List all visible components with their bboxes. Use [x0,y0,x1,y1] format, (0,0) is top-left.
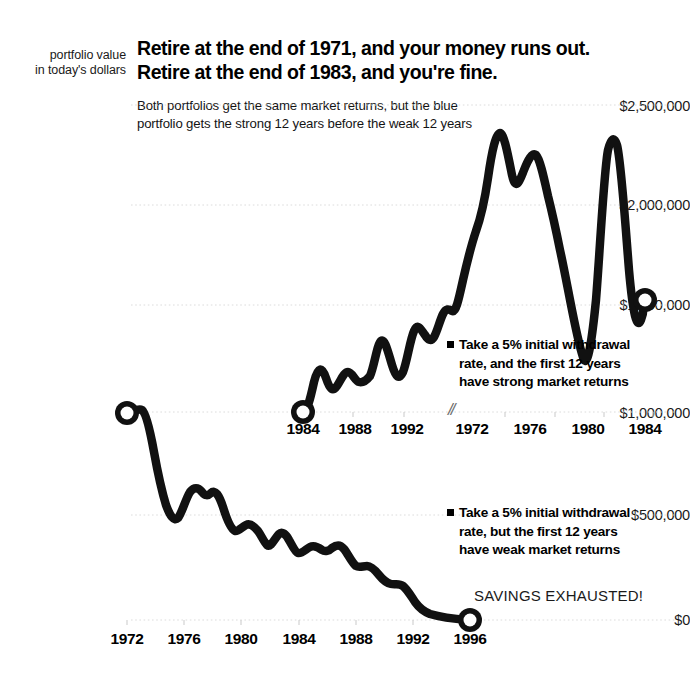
x-tick-upper-1992: 1992 [390,420,423,438]
upper-axis-ticks [303,412,653,417]
annotation-strong-line3: have strong market returns [447,373,687,392]
annotation-weak-line2: rate, but the first 12 years [447,523,687,542]
x-tick-lower-1980: 1980 [224,630,257,648]
x-tick-upper-1976: 1976 [513,420,546,438]
x-tick-upper-1988: 1988 [338,420,371,438]
x-tick-lower-1996: 1996 [453,630,486,648]
chart-container: portfolio value in today's dollars Retir… [0,0,690,689]
annotation-strong-returns: Take a 5% initial withdrawal rate, and t… [447,336,687,392]
series-start-marker-weak [115,401,139,425]
x-tick-lower-1972: 1972 [110,630,143,648]
annotation-bullet-icon [447,509,454,516]
annotation-strong-line1: Take a 5% initial withdrawal [459,337,630,352]
axis-break-marker: // [448,400,453,420]
x-tick-lower-1992: 1992 [396,630,429,648]
x-tick-lower-1976: 1976 [167,630,200,648]
lower-axis-ticks [127,620,470,625]
series-end-marker-strong [633,288,657,312]
series-end-marker-weak [458,608,482,632]
annotation-weak-line1: Take a 5% initial withdrawal [459,505,630,520]
annotation-weak-line3: have weak market returns [447,541,687,560]
annotation-bullet-icon [447,341,454,348]
annotation-weak-returns: Take a 5% initial withdrawal rate, but t… [447,504,687,560]
x-tick-upper-1980: 1980 [571,420,604,438]
x-tick-upper-1984b: 1984 [628,420,661,438]
x-tick-upper-1984a: 1984 [286,420,319,438]
x-tick-lower-1984: 1984 [282,630,315,648]
annotation-strong-line2: rate, and the first 12 years [447,355,687,374]
x-tick-lower-1988: 1988 [339,630,372,648]
savings-exhausted-label: SAVINGS EXHAUSTED! [474,587,643,604]
x-tick-upper-1972: 1972 [455,420,488,438]
